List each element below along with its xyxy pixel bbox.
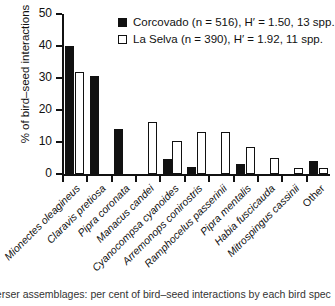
y-tick-label: 0 (28, 166, 52, 180)
x-tick-mark (86, 176, 88, 182)
bar-corcovado-0 (65, 46, 74, 174)
bar-la-selva-0 (75, 72, 84, 174)
bar-la-selva-4 (172, 141, 181, 174)
x-category-label: Mitrospingus cassinii (225, 182, 302, 259)
y-tick-mark (56, 173, 62, 175)
x-tick-mark (184, 176, 186, 182)
bar-la-selva-8 (270, 158, 279, 174)
x-tick-mark (208, 176, 210, 182)
x-tick-mark (306, 176, 308, 182)
x-axis-line (62, 174, 330, 176)
x-category-label: Other (300, 182, 327, 209)
x-category-label: Arremonops conirostris (120, 182, 205, 267)
y-tick-label: 50 (28, 6, 52, 20)
x-tick-mark (62, 176, 64, 182)
y-tick-label: 30 (28, 70, 52, 84)
y-tick-mark (56, 77, 62, 79)
y-tick-mark (56, 109, 62, 111)
bar-la-selva-10 (319, 168, 328, 174)
x-category-label: Habia fuscicauda (212, 182, 277, 247)
x-category-label: Pipra coronata (75, 182, 132, 239)
y-tick-label: 40 (28, 38, 52, 52)
x-tick-mark (159, 176, 161, 182)
bar-corcovado-5 (187, 167, 196, 174)
y-tick-mark (56, 45, 62, 47)
x-tick-mark (257, 176, 259, 182)
x-tick-mark (281, 176, 283, 182)
bar-corcovado-2 (114, 129, 123, 174)
y-axis-line (62, 14, 64, 174)
x-category-label: Ramphocelus passerinii (142, 182, 229, 269)
bar-corcovado-1 (90, 76, 99, 174)
bar-la-selva-3 (148, 122, 157, 174)
x-category-label: Manacus candei (94, 182, 157, 245)
bar-corcovado-10 (309, 161, 318, 174)
bar-corcovado-7 (236, 164, 245, 174)
bar-la-selva-9 (294, 168, 303, 174)
plot-area: 01020304050 (62, 14, 330, 174)
y-tick-label: 20 (28, 102, 52, 116)
bar-la-selva-7 (246, 147, 255, 174)
bar-corcovado-4 (163, 159, 172, 174)
y-tick-label: 10 (28, 134, 52, 148)
x-tick-mark (135, 176, 137, 182)
x-category-label: Claravis pretiosa (43, 182, 107, 246)
x-category-label: Cyanocompsa cyanoides (89, 182, 180, 273)
y-tick-mark (56, 141, 62, 143)
figure-caption: perser assemblages: per cent of bird–see… (0, 288, 334, 300)
x-tick-mark (111, 176, 113, 182)
bar-la-selva-6 (221, 132, 230, 174)
x-category-label: Mionectes oleagineus (2, 182, 82, 262)
bar-la-selva-5 (197, 132, 206, 174)
y-tick-mark (56, 13, 62, 15)
x-tick-mark (233, 176, 235, 182)
x-category-label: Pipra mentalis (197, 182, 253, 238)
